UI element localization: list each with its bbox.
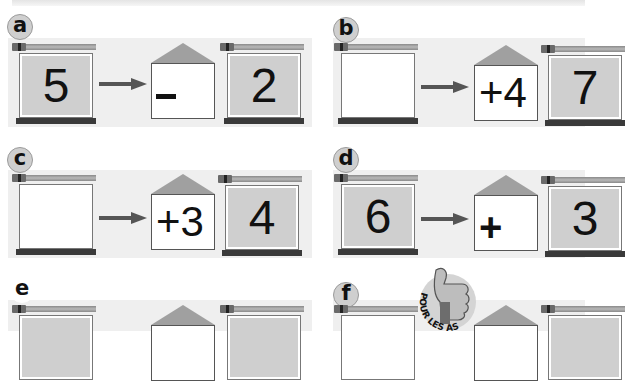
frame-base [338, 118, 418, 124]
arrow-right-icon [99, 212, 147, 224]
frame-base [545, 251, 625, 257]
exercise-f-output-box[interactable] [545, 306, 625, 385]
exercise-e-output-box[interactable] [224, 306, 304, 385]
clip-icon [218, 175, 232, 183]
frame-base [545, 120, 625, 126]
exercise-d-label: d [333, 147, 359, 173]
input-value: 6 [341, 184, 415, 249]
exercise-a-input-box[interactable]: 5 [16, 44, 96, 124]
exercise-c-input-box[interactable] [16, 175, 96, 255]
frame-rail [16, 306, 96, 312]
frame-rail [545, 46, 625, 52]
exercise-d-operator-house[interactable]: + [474, 175, 538, 251]
exercise-f-operator-house[interactable] [474, 305, 538, 381]
input-value [19, 315, 93, 380]
clip-icon [12, 174, 26, 182]
exercise-a-output-box[interactable]: 2 [224, 44, 304, 124]
roof [474, 175, 538, 195]
exercise-d-output-box[interactable]: 3 [545, 177, 625, 257]
clip-icon [334, 305, 348, 313]
output-value: 7 [548, 55, 622, 120]
operator-box: +4 [474, 65, 538, 121]
roof [474, 305, 538, 325]
clip-icon [220, 305, 234, 313]
frame-rail [545, 306, 625, 312]
operator-box [151, 325, 215, 381]
arrow-right-icon [421, 81, 469, 93]
exercise-c-operator-house[interactable]: +3 [151, 174, 215, 250]
frame-base [16, 249, 96, 255]
input-value: 5 [19, 53, 93, 118]
frame-rail [338, 175, 418, 181]
exercise-d-input-box[interactable]: 6 [338, 175, 418, 255]
frame-rail [16, 175, 96, 181]
exercise-b-label: b [333, 17, 359, 43]
exercise-e-input-box[interactable] [16, 306, 96, 385]
exercise-c-output-box[interactable]: 4 [222, 176, 302, 256]
exercise-f-input-box[interactable] [338, 306, 418, 385]
clip-icon [334, 43, 348, 51]
operator-box [474, 325, 538, 381]
arrow-right-icon [421, 213, 469, 225]
operator-box: +3 [151, 194, 215, 250]
clip-icon [12, 305, 26, 313]
operand-value: 4 [504, 72, 527, 114]
frame-base [338, 249, 418, 255]
clip-icon [541, 176, 555, 184]
minus-icon [156, 94, 176, 99]
output-value [548, 315, 622, 380]
exercise-b-input-box[interactable] [338, 44, 418, 124]
operator-sign: + [479, 207, 502, 247]
frame-rail [338, 306, 418, 312]
clip-icon [541, 45, 555, 53]
thumbs-up-icon: POUR LES AS [412, 262, 480, 331]
output-value [227, 315, 301, 380]
frame-rail [222, 176, 302, 182]
top-band [12, 0, 585, 6]
roof [474, 45, 538, 65]
arrow-right-icon [99, 78, 147, 90]
input-value [341, 53, 415, 118]
exercise-e-operator-house[interactable] [151, 305, 215, 381]
frame-base [222, 250, 302, 256]
roof [151, 174, 215, 194]
frame-base [16, 118, 96, 124]
operand-value: 3 [181, 201, 204, 243]
frame-rail [224, 44, 304, 50]
frame-rail [545, 177, 625, 183]
frame-base [224, 118, 304, 124]
exercise-b-operator-house[interactable]: +4 [474, 45, 538, 121]
operator-sign: + [156, 201, 181, 243]
clip-icon [220, 43, 234, 51]
roof [151, 43, 215, 63]
output-value: 2 [227, 53, 301, 118]
input-value [341, 315, 415, 380]
roof [151, 305, 215, 325]
output-value: 4 [225, 185, 299, 250]
frame-rail [338, 44, 418, 50]
clip-icon [12, 43, 26, 51]
input-value [19, 184, 93, 249]
clip-icon [334, 174, 348, 182]
exercise-e-label: e [9, 277, 35, 303]
exercise-c-label: c [7, 147, 33, 173]
operator-box: + [474, 195, 538, 251]
operator-sign: + [479, 72, 504, 114]
frame-rail [16, 44, 96, 50]
exercise-a-label: a [7, 14, 33, 40]
frame-rail [224, 306, 304, 312]
operator-box [151, 63, 215, 119]
exercise-a-operator-house[interactable] [151, 43, 215, 119]
output-value: 3 [548, 186, 622, 251]
clip-icon [541, 305, 555, 313]
exercise-b-output-box[interactable]: 7 [545, 46, 625, 126]
